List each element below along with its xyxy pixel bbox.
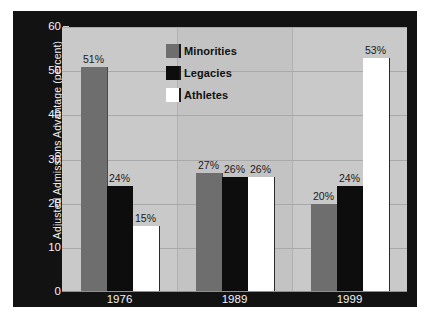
gridline-30 [62, 160, 407, 161]
bar-value-label-athletes-1976: 15% [126, 212, 166, 224]
x-axis: 197619891999 [62, 292, 407, 307]
legend-item-athletes: Athletes [166, 86, 284, 103]
bar-minorities-1989 [196, 173, 223, 292]
bar-athletes-1976 [133, 226, 160, 292]
legend-swatch-legacies-icon [166, 66, 181, 80]
bar-athletes-1989 [248, 177, 275, 292]
legend-item-legacies: Legacies [166, 64, 284, 81]
y-axis-tick-10: 10 [27, 242, 61, 253]
legend: Minorities Legacies Athletes [166, 42, 284, 108]
legend-item-minorities: Minorities [166, 42, 284, 59]
y-axis-tick-0: 0 [27, 286, 61, 297]
legend-label-legacies: Legacies [184, 67, 232, 79]
bar-value-label-athletes-1989: 26% [241, 163, 281, 175]
bar-value-label-legacies-1976: 24% [100, 172, 140, 184]
bar-legacies-1999 [337, 186, 363, 292]
bar-minorities-1999 [311, 204, 338, 292]
bar-value-label-athletes-1999: 53% [356, 44, 396, 56]
y-axis-tick-group: 0102030405060 [19, 11, 61, 307]
bar-athletes-1999 [363, 58, 390, 292]
y-axis-tick-50: 50 [27, 65, 61, 76]
chart-frame: Adjusted Admissions Advantage (percent) … [13, 11, 417, 307]
y-axis-tick-20: 20 [27, 198, 61, 209]
bar-legacies-1976 [107, 186, 133, 292]
gridline-60 [62, 27, 407, 28]
x-axis-label-1976: 1976 [107, 293, 133, 305]
bar-legacies-1989 [222, 177, 248, 292]
legend-swatch-minorities-icon [166, 44, 181, 58]
legend-swatch-athletes-icon [166, 88, 181, 102]
plot-area: 51%24%15%27%26%26%20%24%53% Minorities L… [62, 27, 407, 292]
x-axis-label-1999: 1999 [337, 293, 363, 305]
gridline-40 [62, 115, 407, 116]
legend-label-athletes: Athletes [184, 89, 228, 101]
y-axis-tick-60: 60 [27, 21, 61, 32]
y-axis-tick-40: 40 [27, 109, 61, 120]
x-axis-label-1989: 1989 [222, 293, 248, 305]
legend-label-minorities: Minorities [184, 45, 237, 57]
y-axis-tick-30: 30 [27, 154, 61, 165]
bar-value-label-minorities-1976: 51% [74, 53, 114, 65]
